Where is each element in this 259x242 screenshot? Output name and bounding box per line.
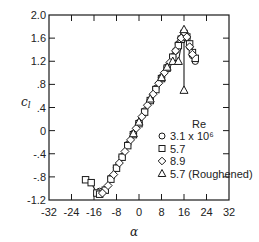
legend: Re 3.1 x 10⁶5.78.95.7 (Roughened) [158, 118, 252, 180]
legend-entry-label: 5.7 [170, 143, 185, 155]
circle-marker [159, 133, 165, 139]
lift-coefficient-chart: -32-24-16-808162432-1.2-.8-.40.4.81.21.6… [0, 0, 259, 242]
y-tick-label: 1.6 [31, 32, 46, 44]
legend-entry-label: 3.1 x 10⁶ [170, 130, 214, 142]
y-tick-label: -.8 [33, 171, 46, 183]
x-tick-label: 32 [223, 206, 235, 218]
legend-entry: 5.7 (Roughened) [158, 168, 252, 180]
x-tick-label: -16 [86, 206, 102, 218]
x-tick-label: -32 [41, 206, 57, 218]
x-tick-label: 8 [158, 206, 164, 218]
x-axis-title: α [130, 225, 138, 239]
diamond-marker [158, 157, 166, 165]
y-tick-label: .4 [37, 102, 46, 114]
square-marker [88, 179, 94, 185]
x-tick-label: 24 [200, 206, 212, 218]
axis-tick-labels: -32-24-16-808162432-1.2-.8-.40.4.81.21.6… [27, 9, 235, 218]
triangle-marker [180, 86, 188, 93]
x-tick-label: -24 [64, 206, 80, 218]
legend-entry: 3.1 x 10⁶ [159, 130, 214, 142]
y-tick-label: -.4 [33, 148, 46, 160]
legend-entry-label: 8.9 [170, 155, 185, 167]
y-axis-title: cl [21, 95, 31, 110]
legend-entry: 5.7 [159, 143, 185, 155]
y-tick-label: 0 [40, 125, 46, 137]
triangle-marker [180, 25, 188, 32]
y-tick-label: .8 [37, 78, 46, 90]
y-tick-label: 1.2 [31, 55, 46, 67]
x-tick-label: -8 [112, 206, 122, 218]
legend-title: Re [192, 118, 206, 130]
legend-entry-label: 5.7 (Roughened) [170, 168, 253, 180]
y-tick-label: 2.0 [31, 9, 46, 21]
x-tick-label: 16 [178, 206, 190, 218]
triangle-marker [158, 170, 166, 177]
x-tick-label: 0 [136, 206, 142, 218]
square-marker [159, 146, 165, 152]
legend-entry: 8.9 [158, 155, 185, 167]
y-tick-label: -1.2 [27, 194, 46, 206]
